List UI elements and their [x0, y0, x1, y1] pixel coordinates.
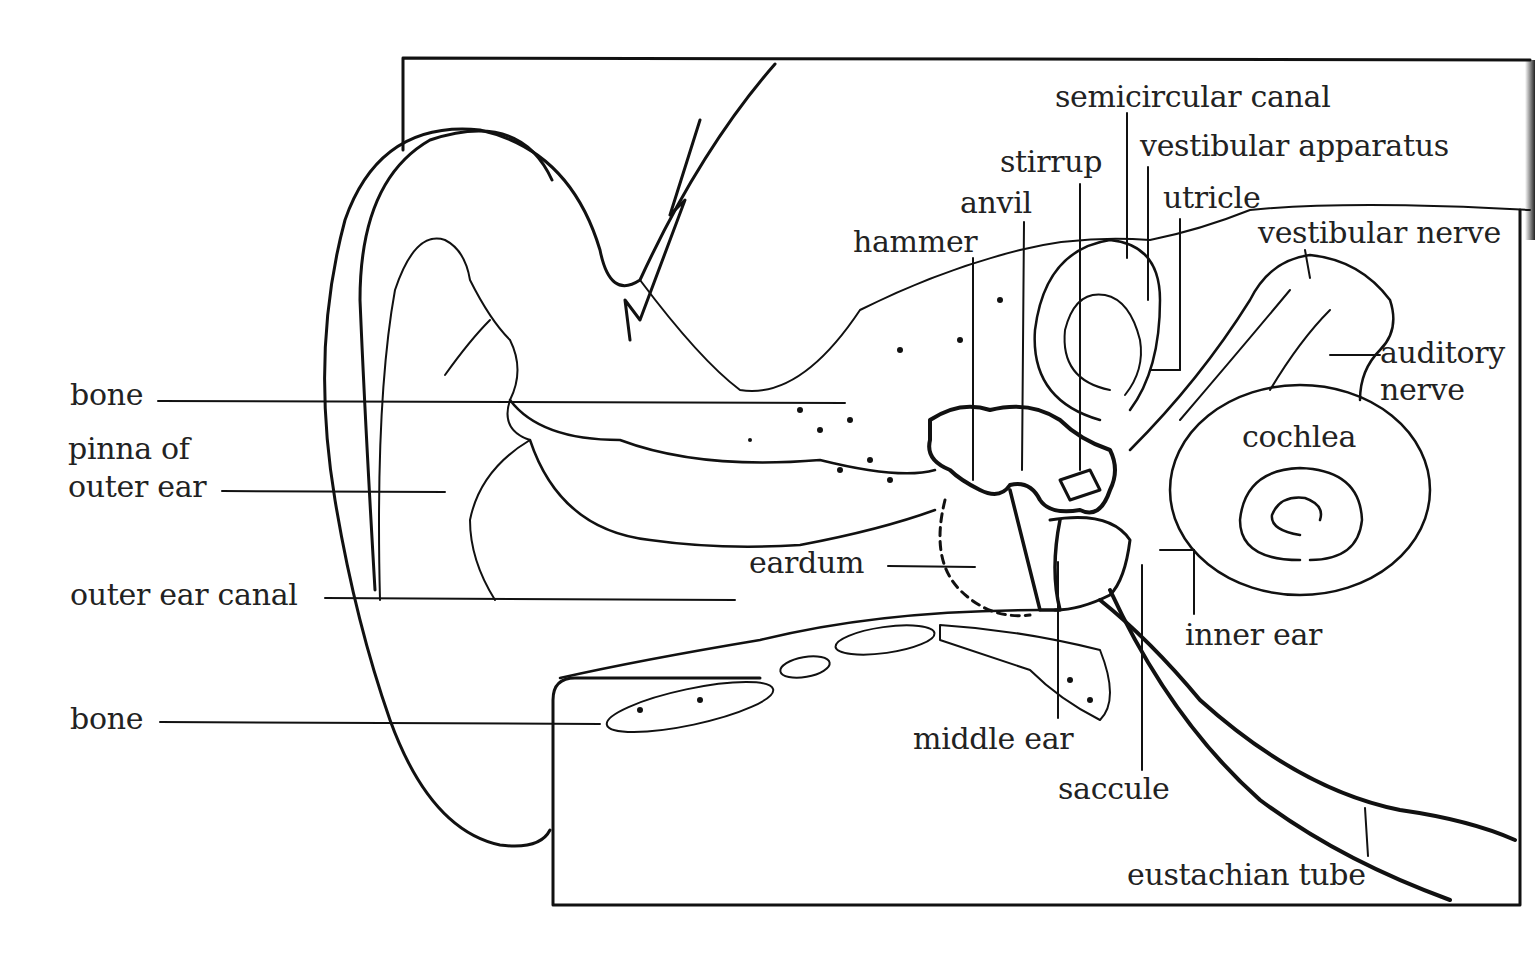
label-pinna-2: outer ear	[68, 470, 206, 504]
middle-ear-cavity	[1050, 518, 1130, 611]
label-anvil: anvil	[960, 186, 1032, 220]
antihelix	[379, 239, 530, 600]
label-pinna-1: pinna of	[68, 432, 190, 466]
cochlea-outer	[1170, 385, 1430, 595]
label-saccule: saccule	[1058, 772, 1169, 806]
label-middle-ear: middle ear	[913, 722, 1073, 756]
label-cochlea: cochlea	[1242, 420, 1356, 454]
stirrup-shape	[1060, 470, 1100, 500]
label-vestibular-apparatus: vestibular apparatus	[1140, 129, 1449, 163]
auditory-nerve	[1180, 290, 1330, 420]
label-hammer: hammer	[853, 225, 977, 259]
semicircular-canal-inner	[1065, 294, 1141, 395]
semicircular-canal	[1035, 240, 1160, 420]
label-inner-ear: inner ear	[1185, 618, 1322, 652]
hairline	[625, 120, 700, 340]
label-outer-ear-canal: outer ear canal	[70, 578, 298, 612]
label-utricle: utricle	[1163, 181, 1260, 215]
label-stirrup: stirrup	[1000, 145, 1102, 179]
leader-lines	[158, 113, 1380, 856]
label-semicircular-canal: semicircular canal	[1055, 80, 1331, 114]
label-auditory-nerve-1: auditory	[1380, 336, 1505, 370]
canal-lower	[530, 440, 935, 547]
label-vestibular-nerve: vestibular nerve	[1258, 216, 1501, 250]
canal-floor	[560, 610, 1040, 678]
pinna-outline	[325, 64, 775, 846]
label-auditory-nerve-2: nerve	[1380, 373, 1465, 407]
label-bone-lower: bone	[70, 702, 143, 736]
cochlea-spiral	[1240, 468, 1362, 560]
label-eardrum: eardum	[749, 546, 864, 580]
concha	[445, 320, 490, 375]
label-bone-upper: bone	[70, 378, 143, 412]
label-eustachian-tube: eustachian tube	[1127, 858, 1366, 892]
